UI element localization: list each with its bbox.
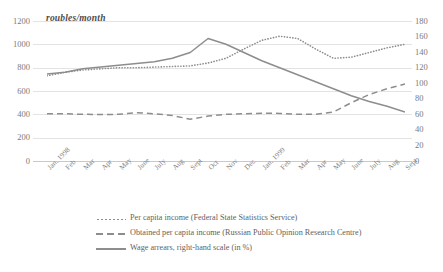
solid-line-marker (96, 248, 126, 250)
y-axis-left-tick-label: 800 (0, 63, 30, 72)
legend-item: Wage arrears, right-hand scale (in %) (96, 241, 426, 256)
legend-item-label: Obtained per capita income (Russian Publ… (130, 226, 361, 240)
y-axis-left-tick-label: 0 (0, 157, 30, 166)
y-axis-right-tick-label: 20 (415, 141, 424, 150)
y-axis-left-tick-label: 200 (0, 133, 30, 142)
y-axis-right-tick-label: 160 (415, 32, 428, 41)
legend-item-label: Wage arrears, right-hand scale (in %) (130, 241, 252, 255)
y-axis-right-tick-label: 140 (415, 48, 428, 57)
dotted-line-marker (96, 218, 126, 221)
y-axis-right-tick-label: 120 (415, 63, 428, 72)
legend-item: Obtained per capita income (Russian Publ… (96, 226, 426, 241)
chart-legend: Per capita income (Federal State Statist… (96, 211, 426, 256)
legend-item-label: Per capita income (Federal State Statist… (130, 211, 297, 225)
chart-figure: roubles/month 020040060080010001200 0204… (0, 0, 443, 272)
per-capita-income-line (47, 36, 405, 76)
y-axis-right-tick-label: 80 (415, 94, 424, 103)
y-axis-left-tick-label: 400 (0, 110, 30, 119)
y-axis-right-tick-label: 180 (415, 17, 428, 26)
series-lines (47, 21, 405, 161)
y-axis-left-tick-label: 600 (0, 87, 30, 96)
y-axis-left-tick-label: 1000 (0, 40, 30, 49)
legend-item: Per capita income (Federal State Statist… (96, 211, 426, 226)
dashed-line-marker (96, 233, 126, 235)
y-axis-right-tick-label: 60 (415, 110, 424, 119)
y-axis-left-tick-label: 1200 (0, 17, 30, 26)
wage-arrears-line (47, 39, 405, 113)
y-axis-right-tick-label: 40 (415, 125, 424, 134)
y-axis-right-tick-label: 100 (415, 79, 428, 88)
plot-area (47, 21, 405, 161)
obtained-income-line (47, 84, 405, 119)
